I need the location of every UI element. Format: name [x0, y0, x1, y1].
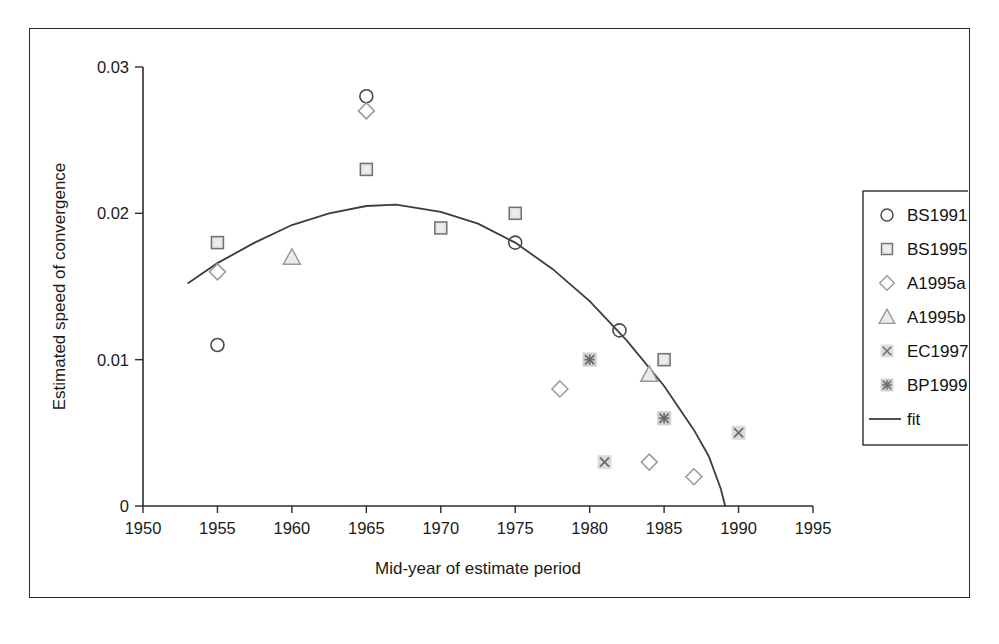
axes-group: 1950195519601965197019751980198519901995… — [97, 58, 831, 537]
figure-page: 1950195519601965197019751980198519901995… — [0, 0, 999, 644]
marker-square-pale — [435, 222, 447, 234]
series-A1995a — [209, 103, 701, 485]
marker-diamond-open — [641, 454, 657, 470]
marker-star-in-square — [881, 379, 894, 392]
x-tick-label: 1965 — [348, 519, 385, 537]
x-tick-label: 1975 — [497, 519, 534, 537]
legend-item-label: BP1999 — [907, 376, 968, 395]
marker-x-in-square — [881, 345, 894, 358]
marker-star-in-square — [657, 411, 671, 425]
marker-triangle-pale — [283, 249, 300, 264]
x-axis-title: Mid-year of estimate period — [375, 559, 581, 578]
figure-frame: 1950195519601965197019751980198519901995… — [29, 28, 970, 598]
legend-group[interactable]: BS1991BS1995A1995aA1995bEC1997BP1999fit — [863, 191, 968, 445]
y-tick-label: 0.03 — [97, 58, 129, 76]
series-BS1995 — [211, 163, 670, 365]
marker-square-pale — [509, 207, 521, 219]
data-markers-group — [209, 90, 745, 485]
x-tick-label: 1950 — [125, 519, 162, 537]
x-tick-label: 1990 — [720, 519, 757, 537]
x-tick-label: 1955 — [199, 519, 236, 537]
y-tick-label: 0.02 — [97, 204, 129, 222]
x-tick-label: 1995 — [795, 519, 832, 537]
axis-titles-group: Mid-year of estimate periodEstimated spe… — [50, 163, 581, 578]
y-tick-label: 0.01 — [97, 351, 129, 369]
fit-curve — [188, 205, 725, 506]
marker-circle-open — [211, 339, 224, 352]
legend-item-label: BS1991 — [907, 206, 968, 225]
marker-x-in-square — [598, 455, 612, 469]
marker-x-in-square — [732, 426, 746, 440]
fit-curve-group — [188, 205, 725, 506]
legend-item-label: EC1997 — [907, 342, 968, 361]
x-tick-label: 1985 — [646, 519, 683, 537]
x-tick-label: 1960 — [274, 519, 311, 537]
marker-square-pale — [360, 163, 372, 175]
y-tick-label: 0 — [120, 497, 129, 515]
legend-item-label: BS1995 — [907, 240, 968, 259]
x-tick-label: 1970 — [422, 519, 459, 537]
marker-square-pale — [658, 354, 670, 366]
legend-item-label: A1995a — [907, 274, 966, 293]
marker-star-in-square — [583, 353, 597, 367]
marker-triangle-pale — [641, 366, 658, 381]
legend-item-label: fit — [907, 410, 921, 429]
marker-diamond-open — [552, 381, 568, 397]
marker-diamond-open — [686, 469, 702, 485]
marker-circle-open — [360, 90, 373, 103]
x-tick-label: 1980 — [571, 519, 608, 537]
series-BS1991 — [211, 90, 626, 352]
marker-diamond-open — [358, 103, 374, 119]
legend-item-label: A1995b — [907, 308, 966, 327]
convergence-scatter-chart: 1950195519601965197019751980198519901995… — [30, 29, 968, 596]
series-EC1997 — [583, 353, 746, 469]
marker-square-pale — [211, 237, 223, 249]
marker-circle-open — [613, 324, 626, 337]
marker-square-pale — [881, 243, 892, 254]
y-axis-title: Estimated speed of convergence — [50, 163, 69, 411]
